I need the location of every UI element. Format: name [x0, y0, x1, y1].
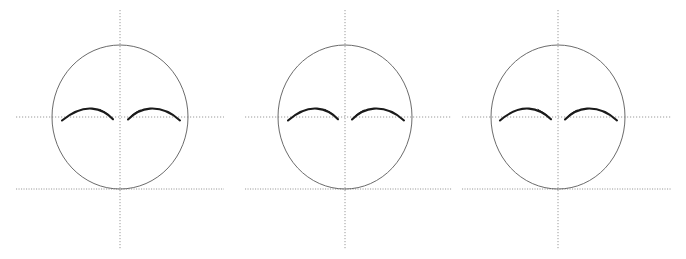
panel-3-left-arc: [500, 109, 551, 121]
geometry-diagram-svg: [0, 0, 686, 259]
panel-2-left-arc: [288, 109, 338, 121]
panel-3: [462, 10, 672, 249]
figure-canvas: [0, 0, 686, 259]
panel-1-right-arc: [128, 109, 180, 121]
panel-2: [245, 10, 452, 249]
figure-caption-row: [0, 243, 686, 257]
panel-2-right-arc: [352, 109, 404, 121]
panel-3-right-arc: [565, 109, 617, 121]
panel-1-circle: [52, 45, 188, 189]
panel-1-left-arc: [62, 109, 113, 121]
panel-1: [16, 10, 224, 249]
